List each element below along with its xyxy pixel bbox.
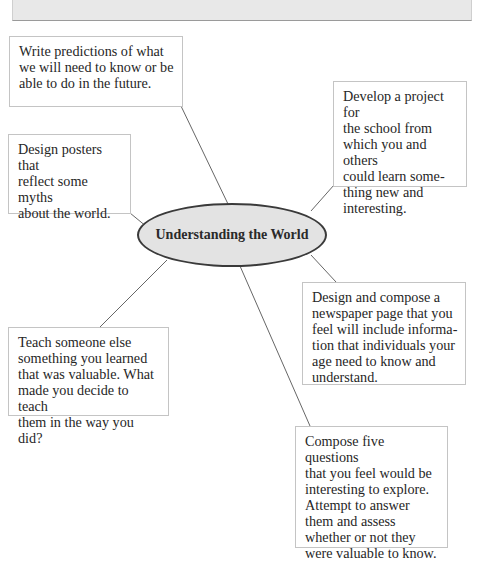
node-questions: Compose five questions that you feel wou… [295, 426, 448, 548]
node-posters: Design posters that reflect some myths a… [8, 134, 131, 214]
node-project: Develop a project for the school from wh… [333, 81, 467, 187]
central-topic-label: Understanding the World [156, 227, 309, 243]
node-newspaper: Design and compose a newspaper page that… [302, 282, 466, 385]
node-predictions: Write predictions of what we will need t… [9, 36, 183, 107]
connector-teach [100, 260, 167, 327]
connector-questions [240, 266, 310, 426]
connector-predictions [181, 106, 228, 204]
connector-newspaper [311, 255, 336, 282]
central-topic: Understanding the World [137, 203, 327, 267]
node-teach: Teach someone else something you learned… [8, 327, 169, 416]
connector-project [311, 185, 334, 211]
